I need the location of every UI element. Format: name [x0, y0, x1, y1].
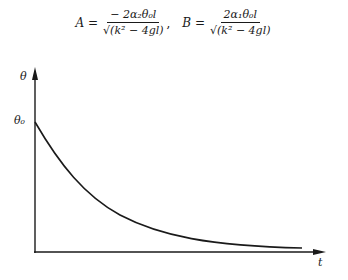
y-tick-theta0: θ₀ [14, 114, 26, 127]
decay-curve [35, 122, 302, 248]
x-axis-label: t [318, 256, 323, 269]
decay-chart: θ θ₀ t [0, 0, 348, 280]
x-axis-arrow-icon [313, 249, 326, 255]
y-axis-arrow-icon [32, 67, 38, 80]
y-axis-label: θ [20, 70, 27, 83]
